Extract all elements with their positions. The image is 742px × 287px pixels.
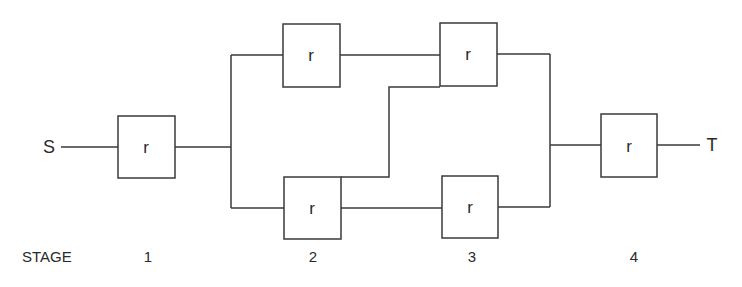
component-labels: r r r r r r xyxy=(143,45,632,218)
component-label: r xyxy=(309,199,315,218)
component-label: r xyxy=(467,198,473,217)
wire-cross-link xyxy=(341,87,440,177)
component-label: r xyxy=(626,137,632,156)
stage-heading: STAGE xyxy=(22,248,72,265)
reliability-block-diagram: r r r r r r S T STAGE 1 2 3 4 xyxy=(0,0,742,287)
component-label: r xyxy=(465,45,471,64)
stage-number-2: 2 xyxy=(309,248,317,265)
stage-row: STAGE 1 2 3 4 xyxy=(22,248,638,265)
target-label: T xyxy=(707,135,718,155)
stage-number-4: 4 xyxy=(630,248,638,265)
source-label: S xyxy=(43,137,55,157)
stage-number-3: 3 xyxy=(468,248,476,265)
component-label: r xyxy=(143,138,149,157)
stage-number-1: 1 xyxy=(144,248,152,265)
component-label: r xyxy=(308,46,314,65)
